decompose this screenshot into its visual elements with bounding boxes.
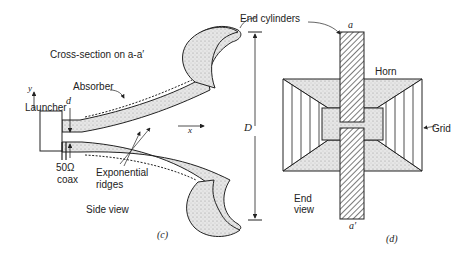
end-view-label-line2: view xyxy=(294,205,314,215)
cross-section-title: Cross-section on a-a′ xyxy=(50,50,144,60)
end-cylinders-label: End cylinders xyxy=(240,14,300,24)
grid-label: Grid xyxy=(432,124,451,134)
end-cylinders-leader xyxy=(308,22,340,34)
launcher-box xyxy=(40,111,62,151)
D-label: D xyxy=(244,122,252,133)
horn-label: Horn xyxy=(375,67,397,77)
end-cylinder-bottom xyxy=(340,128,364,219)
caption-c: (c) xyxy=(157,230,168,240)
side-view-label: Side view xyxy=(86,205,129,215)
panel-d-end-view xyxy=(240,18,436,219)
exponential-label: Exponential xyxy=(96,168,148,178)
bottom-curl xyxy=(187,180,240,237)
horn-antenna-diagram xyxy=(0,0,476,258)
section-a-label: a xyxy=(348,20,353,30)
end-view-label-line1: End xyxy=(294,194,312,204)
caption-d: (d) xyxy=(386,234,398,244)
absorber-label: Absorber xyxy=(73,82,114,92)
coax-impedance-label: 50Ω xyxy=(56,163,75,173)
coax-label: coax xyxy=(57,175,78,185)
section-a-prime-label: a′ xyxy=(349,221,356,231)
x-axis-label: x xyxy=(188,126,192,135)
end-cylinder-top xyxy=(340,32,364,122)
y-axis-label: y xyxy=(28,84,32,93)
ridges-label: ridges xyxy=(96,180,123,190)
ridge-leader xyxy=(120,128,150,164)
launcher-label: Launcher xyxy=(25,103,67,113)
